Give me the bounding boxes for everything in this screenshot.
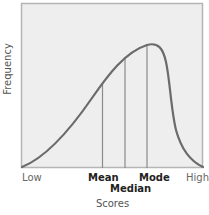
plot-frame [22,4,203,168]
x-tick-median: Median [110,183,151,195]
x-axis-label: Scores [0,198,209,209]
y-axis-label: Frequency [2,34,14,104]
x-tick-low: Low [22,172,42,184]
x-tick-high: High [186,172,209,184]
